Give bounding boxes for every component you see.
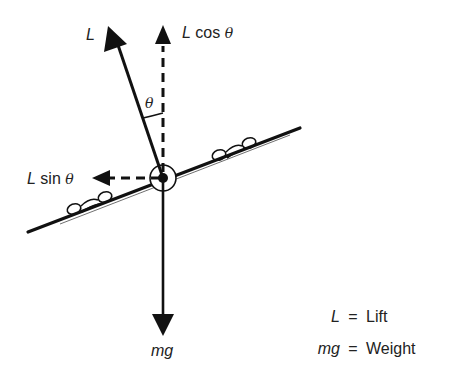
lift-horizontal-label: L sin θ xyxy=(27,170,74,187)
weight-label: mg xyxy=(151,342,173,359)
lift-label: L xyxy=(86,26,95,43)
helicopter-rotor-force-diagram: L L cos θ L sin θ θ mg xyxy=(0,0,459,380)
lift-vertical-component-arrow xyxy=(155,25,171,172)
lift-vertical-label: L cos θ xyxy=(182,24,234,41)
angle-arc xyxy=(143,113,163,118)
legend-equals: = xyxy=(340,308,366,326)
legend-meaning: Weight xyxy=(366,340,416,357)
lift-vector-arrow xyxy=(104,26,163,178)
weight-vector-arrow xyxy=(152,178,174,336)
legend-symbol: mg xyxy=(306,340,340,358)
legend-equals: = xyxy=(340,340,366,358)
legend-meaning: Lift xyxy=(366,308,387,325)
legend-row-lift: L=Lift xyxy=(306,308,387,326)
legend-row-weight: mg=Weight xyxy=(306,340,416,358)
angle-theta-label: θ xyxy=(145,95,154,111)
legend-symbol: L xyxy=(306,308,340,326)
